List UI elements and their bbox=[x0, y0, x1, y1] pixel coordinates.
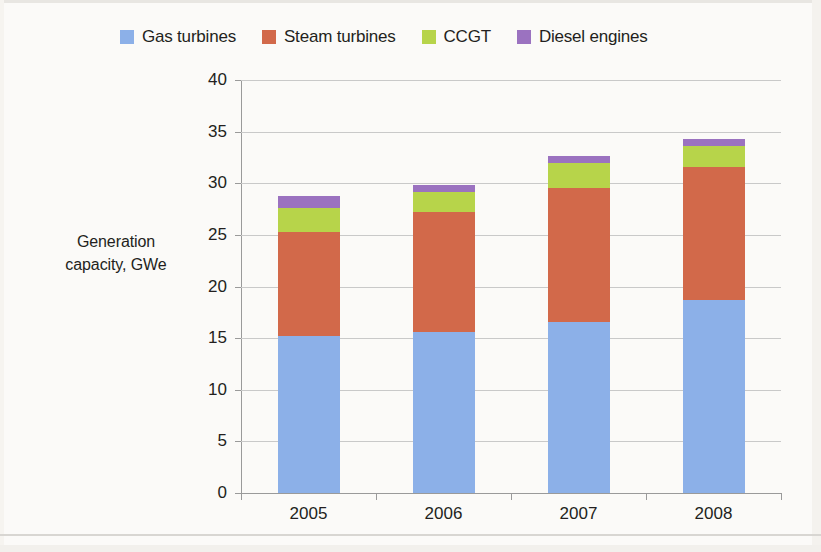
y-axis-tick-mark bbox=[235, 338, 241, 339]
x-axis-category-label: 2008 bbox=[654, 504, 774, 524]
legend-label: Diesel engines bbox=[539, 27, 648, 47]
y-axis-tick-mark bbox=[235, 183, 241, 184]
y-axis-tick-mark bbox=[235, 80, 241, 81]
y-axis-tick-label: 20 bbox=[208, 277, 227, 297]
page-edge-right bbox=[812, 0, 821, 552]
x-axis-tick-mark bbox=[781, 493, 782, 500]
bar-segment[interactable] bbox=[278, 336, 340, 493]
bar-segment[interactable] bbox=[413, 212, 475, 332]
bar-segment[interactable] bbox=[413, 185, 475, 191]
page-edge-left bbox=[0, 0, 4, 552]
legend-label: Gas turbines bbox=[142, 27, 236, 47]
bar-segment[interactable] bbox=[278, 208, 340, 232]
x-axis-tick-mark bbox=[511, 493, 512, 500]
legend-label: Steam turbines bbox=[284, 27, 396, 47]
plot-area: 0510152025303540 2005200620072008 bbox=[241, 80, 781, 493]
legend-entry: CCGT bbox=[422, 27, 491, 47]
bar-segment[interactable] bbox=[413, 332, 475, 493]
y-axis-tick-label: 30 bbox=[208, 173, 227, 193]
legend-entry: Steam turbines bbox=[262, 27, 396, 47]
y-axis-tick-mark bbox=[235, 287, 241, 288]
bar-segment[interactable] bbox=[548, 322, 610, 493]
legend-entry: Gas turbines bbox=[120, 27, 236, 47]
bar-group[interactable] bbox=[548, 80, 610, 493]
bar-group[interactable] bbox=[683, 80, 745, 493]
legend-label: CCGT bbox=[444, 27, 491, 47]
x-axis-category-label: 2005 bbox=[249, 504, 369, 524]
bar-group[interactable] bbox=[278, 80, 340, 493]
legend-swatch-ccgt bbox=[422, 30, 436, 44]
bar-segment[interactable] bbox=[548, 156, 610, 162]
legend-entry: Diesel engines bbox=[517, 27, 648, 47]
legend-swatch-diesel-engines bbox=[517, 30, 531, 44]
bar-segment[interactable] bbox=[683, 139, 745, 146]
bar-segment[interactable] bbox=[413, 192, 475, 213]
x-axis-tick-mark bbox=[646, 493, 647, 500]
y-axis-tick-label: 25 bbox=[208, 225, 227, 245]
x-axis-category-label: 2007 bbox=[519, 504, 639, 524]
y-axis-tick-label: 15 bbox=[208, 328, 227, 348]
bar-segment[interactable] bbox=[548, 163, 610, 189]
page-edge-bottom bbox=[0, 534, 821, 536]
bar-segment[interactable] bbox=[548, 188, 610, 321]
bar-segment[interactable] bbox=[278, 196, 340, 208]
y-axis-tick-label: 10 bbox=[208, 380, 227, 400]
bar-segment[interactable] bbox=[683, 300, 745, 493]
chart-legend: Gas turbinesSteam turbinesCCGTDiesel eng… bbox=[120, 24, 648, 50]
y-axis-title-line1: Generation bbox=[36, 230, 196, 253]
y-axis-tick-label: 5 bbox=[218, 431, 227, 451]
x-axis-tick-mark bbox=[241, 493, 242, 500]
x-axis-category-label: 2006 bbox=[384, 504, 504, 524]
y-axis-tick-label: 35 bbox=[208, 122, 227, 142]
y-axis-title: Generation capacity, GWe bbox=[36, 230, 196, 276]
y-axis-tick-mark bbox=[235, 235, 241, 236]
page-edge-bottom-shadow bbox=[0, 545, 821, 552]
chart-page: Gas turbinesSteam turbinesCCGTDiesel eng… bbox=[0, 0, 821, 552]
y-axis-title-line2: capacity, GWe bbox=[36, 253, 196, 276]
y-axis-tick-mark bbox=[235, 441, 241, 442]
y-axis-tick-mark bbox=[235, 132, 241, 133]
y-axis-tick-label: 0 bbox=[218, 483, 227, 503]
x-axis-tick-mark bbox=[376, 493, 377, 500]
y-axis-tick-label: 40 bbox=[208, 70, 227, 90]
bar-segment[interactable] bbox=[683, 167, 745, 300]
bar-group[interactable] bbox=[413, 80, 475, 493]
bar-segment[interactable] bbox=[683, 146, 745, 167]
legend-swatch-steam-turbines bbox=[262, 30, 276, 44]
legend-swatch-gas-turbines bbox=[120, 30, 134, 44]
bar-segment[interactable] bbox=[278, 232, 340, 336]
y-axis-tick-mark bbox=[235, 390, 241, 391]
page-edge-top bbox=[0, 0, 821, 3]
